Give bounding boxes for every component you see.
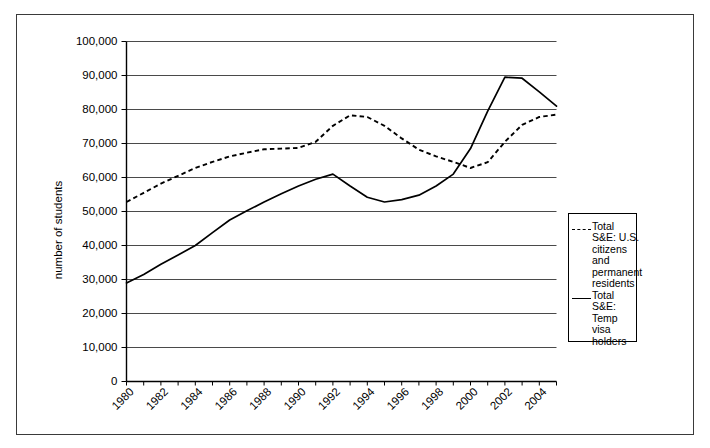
x-axis-ticks: 1980198219841986198819901992199419961998…	[109, 385, 549, 412]
x-tick-label: 1998	[419, 385, 446, 412]
x-tick-label: 1996	[385, 385, 412, 412]
gridlines	[127, 42, 557, 348]
y-tick-label: 60,000	[82, 171, 117, 183]
x-tick-label: 2002	[488, 385, 515, 412]
y-tick-label: 10,000	[82, 341, 117, 353]
y-tick-label: 30,000	[82, 273, 117, 285]
figure-container: 010,00020,00030,00040,00050,00060,00070,…	[0, 0, 710, 448]
x-tick-label: 1992	[316, 385, 343, 412]
y-axis-ticks: 010,00020,00030,00040,00050,00060,00070,…	[76, 35, 127, 387]
y-tick-label: 0	[111, 375, 117, 387]
chart-legend: Total S&E: U.S. citizens and permanent r…	[568, 213, 637, 342]
x-tick-label: 2000	[453, 385, 480, 412]
legend-label-temp-visa: Total S&E: Temp visa holders	[592, 290, 636, 347]
x-tick-label: 1990	[281, 385, 308, 412]
y-tick-label: 20,000	[82, 307, 117, 319]
x-tick-label: 1986	[213, 385, 240, 412]
legend-entry-temp-visa: Total S&E: Temp visa holders	[572, 290, 636, 347]
y-tick-label: 100,000	[76, 35, 118, 47]
x-tick-label: 2004	[522, 385, 549, 412]
x-tick-label: 1980	[109, 385, 136, 412]
y-tick-label: 80,000	[82, 103, 117, 115]
y-axis-title: number of students	[52, 181, 64, 280]
y-tick-label: 40,000	[82, 239, 117, 251]
x-tick-label: 1984	[178, 385, 205, 412]
series-temp-visa-holders	[127, 77, 557, 283]
x-tick-label: 1994	[350, 385, 377, 412]
legend-label-us-citizens: Total S&E: U.S. citizens and permanent r…	[592, 221, 642, 289]
legend-entry-us-citizens: Total S&E: U.S. citizens and permanent r…	[572, 221, 636, 289]
x-tick-label: 1988	[247, 385, 274, 412]
y-tick-label: 70,000	[82, 137, 117, 149]
y-tick-label: 90,000	[82, 69, 117, 81]
solid-line-swatch-icon	[572, 294, 592, 304]
y-tick-label: 50,000	[82, 205, 117, 217]
dashed-line-swatch-icon	[572, 225, 592, 235]
x-tick-label: 1982	[144, 385, 171, 412]
series-us-citizens-permanent-residents	[127, 115, 557, 202]
